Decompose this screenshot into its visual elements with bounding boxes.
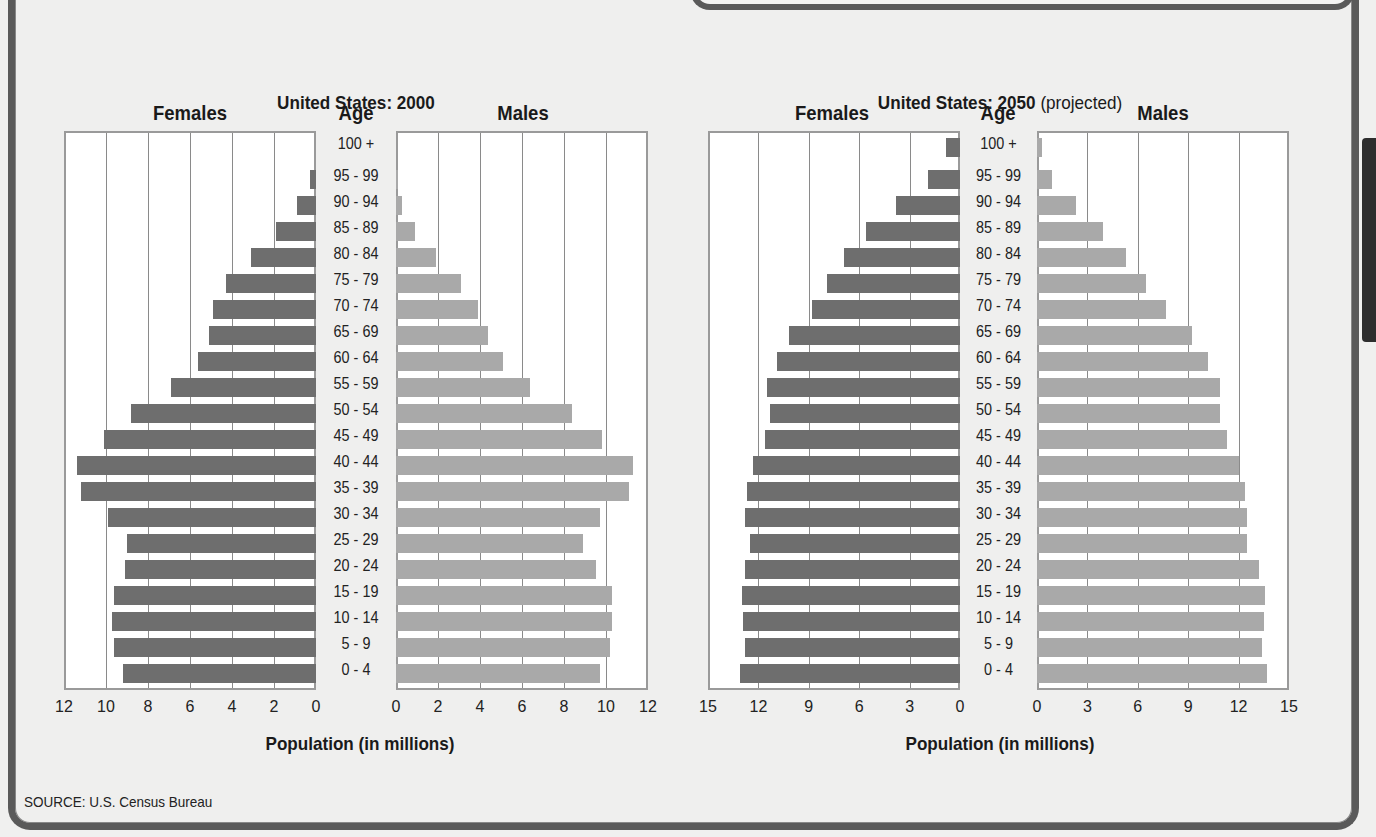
males-header: Males bbox=[1110, 101, 1216, 125]
x-tick-label: 0 bbox=[301, 698, 331, 716]
female-bar bbox=[844, 248, 960, 267]
age-label: 50 - 54 bbox=[964, 401, 1033, 419]
male-bar bbox=[1037, 612, 1264, 631]
female-bar bbox=[747, 482, 960, 501]
male-bar bbox=[1037, 352, 1208, 371]
x-tick-label: 15 bbox=[1274, 698, 1304, 716]
female-bar bbox=[114, 638, 316, 657]
x-tick-label: 9 bbox=[794, 698, 824, 716]
males-plot-2000 bbox=[396, 131, 648, 690]
female-bar bbox=[171, 378, 316, 397]
male-bar bbox=[396, 222, 415, 241]
age-label: 65 - 69 bbox=[320, 323, 392, 341]
male-bar bbox=[1037, 482, 1245, 501]
male-bar bbox=[1037, 170, 1052, 189]
female-bar bbox=[789, 326, 960, 345]
male-bar bbox=[1037, 430, 1227, 449]
age-label: 70 - 74 bbox=[320, 297, 392, 315]
age-label: 15 - 19 bbox=[320, 583, 392, 601]
male-bar bbox=[1037, 586, 1265, 605]
age-label: 80 - 84 bbox=[320, 245, 392, 263]
x-tick-label: 12 bbox=[743, 698, 773, 716]
x-tick-label: 3 bbox=[1072, 698, 1102, 716]
female-bar bbox=[125, 560, 316, 579]
x-tick-label: 4 bbox=[217, 698, 247, 716]
female-bar bbox=[108, 508, 316, 527]
male-bar bbox=[396, 196, 402, 215]
male-bar bbox=[396, 326, 488, 345]
x-tick-label: 12 bbox=[633, 698, 663, 716]
male-bar bbox=[1037, 274, 1146, 293]
male-bar bbox=[1037, 326, 1192, 345]
age-label: 35 - 39 bbox=[964, 479, 1033, 497]
male-bar bbox=[1037, 508, 1247, 527]
female-bar bbox=[750, 534, 960, 553]
females-header: Females bbox=[137, 101, 243, 125]
male-bar bbox=[396, 482, 629, 501]
age-label: 0 - 4 bbox=[320, 661, 392, 679]
age-label: 45 - 49 bbox=[964, 427, 1033, 445]
female-bar bbox=[767, 378, 960, 397]
age-label: 10 - 14 bbox=[320, 609, 392, 627]
age-label: 45 - 49 bbox=[320, 427, 392, 445]
age-label: 5 - 9 bbox=[964, 635, 1033, 653]
females-plot-2000 bbox=[64, 131, 316, 690]
female-bar bbox=[827, 274, 960, 293]
female-bar bbox=[946, 138, 960, 157]
x-tick-label: 12 bbox=[49, 698, 79, 716]
male-bar bbox=[396, 508, 600, 527]
age-label: 75 - 79 bbox=[320, 271, 392, 289]
females-header: Females bbox=[779, 101, 885, 125]
age-label: 85 - 89 bbox=[964, 219, 1033, 237]
male-bar bbox=[396, 300, 478, 319]
x-tick-label: 6 bbox=[175, 698, 205, 716]
male-bar bbox=[396, 430, 602, 449]
age-label: 30 - 34 bbox=[964, 505, 1033, 523]
source-note: SOURCE: U.S. Census Bureau bbox=[24, 793, 212, 810]
female-bar bbox=[276, 222, 316, 241]
males-plot-2050 bbox=[1037, 131, 1289, 690]
male-bar bbox=[1037, 638, 1262, 657]
male-bar bbox=[396, 638, 610, 657]
x-tick-label: 6 bbox=[1123, 698, 1153, 716]
female-bar bbox=[896, 196, 960, 215]
males-header: Males bbox=[470, 101, 576, 125]
male-bar bbox=[1037, 534, 1247, 553]
age-label: 55 - 59 bbox=[964, 375, 1033, 393]
age-label: 65 - 69 bbox=[964, 323, 1033, 341]
top-panel-tab bbox=[690, 0, 1355, 10]
female-bar bbox=[765, 430, 960, 449]
age-axis-2050: 100 +95 - 9990 - 9485 - 8980 - 8475 - 79… bbox=[960, 131, 1037, 690]
age-label: 50 - 54 bbox=[320, 401, 392, 419]
age-label: 40 - 44 bbox=[320, 453, 392, 471]
x-tick-label: 4 bbox=[465, 698, 495, 716]
male-bar bbox=[396, 586, 612, 605]
male-bar bbox=[396, 534, 583, 553]
x-tick-label: 6 bbox=[507, 698, 537, 716]
female-bar bbox=[127, 534, 316, 553]
age-label: 5 - 9 bbox=[320, 635, 392, 653]
female-bar bbox=[777, 352, 960, 371]
side-tab bbox=[1362, 138, 1376, 342]
x-axis-label-2050: Population (in millions) bbox=[856, 733, 1144, 755]
male-bar bbox=[396, 664, 600, 683]
female-bar bbox=[753, 456, 960, 475]
female-bar bbox=[213, 300, 316, 319]
female-bar bbox=[251, 248, 316, 267]
male-bar bbox=[396, 274, 461, 293]
male-bar bbox=[396, 352, 503, 371]
x-tick-label: 0 bbox=[1022, 698, 1052, 716]
female-bar bbox=[114, 586, 316, 605]
male-bar bbox=[1037, 456, 1239, 475]
age-label: 60 - 64 bbox=[320, 349, 392, 367]
x-tick-label: 8 bbox=[549, 698, 579, 716]
female-bar bbox=[131, 404, 316, 423]
female-bar bbox=[123, 664, 316, 683]
age-header: Age bbox=[963, 101, 1033, 125]
age-label: 20 - 24 bbox=[320, 557, 392, 575]
x-tick-label: 2 bbox=[423, 698, 453, 716]
male-bar bbox=[1037, 664, 1267, 683]
age-label: 55 - 59 bbox=[320, 375, 392, 393]
x-tick-label: 10 bbox=[91, 698, 121, 716]
age-label: 25 - 29 bbox=[964, 531, 1033, 549]
